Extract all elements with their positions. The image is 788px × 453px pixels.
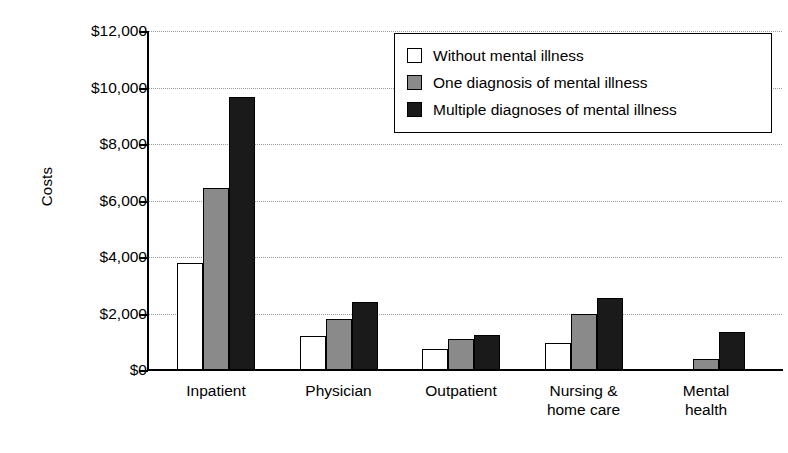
y-tick-label: $8,000	[27, 136, 147, 151]
bar-group	[300, 31, 378, 370]
y-tick-label: $2,000	[27, 306, 147, 321]
y-tick-label: $6,000	[27, 193, 147, 208]
bar	[422, 349, 448, 370]
y-tick-label: $10,000	[27, 80, 147, 95]
bar	[719, 332, 745, 370]
bar	[545, 343, 571, 370]
legend-item: Without mental illness	[407, 42, 759, 69]
bar-chart: Costs $12,000$10,000$8,000$6,000$4,000$2…	[0, 0, 788, 453]
chart-legend: Without mental illnessOne diagnosis of m…	[394, 33, 772, 133]
gray-square-icon	[407, 75, 422, 90]
bar	[448, 339, 474, 370]
y-tick-label: $4,000	[27, 249, 147, 264]
legend-item-label: Without mental illness	[433, 47, 584, 65]
y-tick-mark	[139, 31, 148, 33]
bar	[693, 359, 719, 370]
y-tick-mark	[139, 314, 148, 316]
y-tick-mark	[139, 257, 148, 259]
bar	[300, 336, 326, 370]
bar	[177, 263, 203, 370]
legend-item-label: One diagnosis of mental illness	[433, 74, 648, 92]
bar	[597, 298, 623, 370]
x-category-label: Mental health	[631, 381, 781, 419]
bar	[229, 97, 255, 370]
white-square-icon	[407, 48, 422, 63]
legend-item-label: Multiple diagnoses of mental illness	[433, 101, 677, 119]
bar	[474, 335, 500, 370]
legend-item: Multiple diagnoses of mental illness	[407, 96, 759, 123]
y-tick-mark	[139, 201, 148, 203]
bar	[352, 302, 378, 370]
y-tick-label: $12,000	[27, 23, 147, 38]
black-square-icon	[407, 102, 422, 117]
bar-group	[177, 31, 255, 370]
bar	[571, 314, 597, 371]
legend-item: One diagnosis of mental illness	[407, 69, 759, 96]
y-tick-mark	[139, 144, 148, 146]
y-axis-ticks: $12,000$10,000$8,000$6,000$4,000$2,000$0	[0, 0, 147, 453]
y-tick-mark	[139, 370, 148, 372]
bar	[326, 319, 352, 370]
bar	[203, 188, 229, 370]
y-tick-label: $0	[27, 362, 147, 377]
y-tick-mark	[139, 88, 148, 90]
